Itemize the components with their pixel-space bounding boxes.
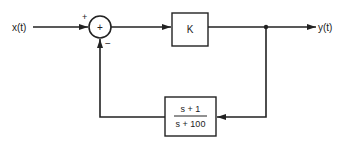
feedback-path-right [217, 27, 266, 117]
feedback-denominator: s + 100 [176, 119, 206, 129]
minus-sign-label: − [105, 38, 111, 49]
block-diagram: x(t) + + − K y(t) s + 1 s + 100 [0, 0, 351, 145]
plus-sign-label: + [82, 12, 87, 22]
gain-label: K [187, 24, 194, 35]
input-label: x(t) [12, 22, 26, 33]
summer-symbol: + [97, 22, 103, 33]
feedback-numerator: s + 1 [181, 104, 201, 114]
feedback-path-left [100, 39, 165, 117]
output-label: y(t) [318, 22, 332, 33]
